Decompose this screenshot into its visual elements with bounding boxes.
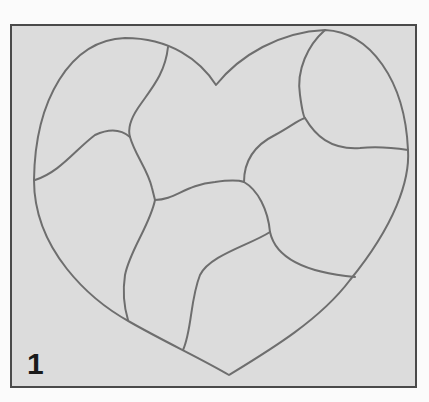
- piece-line-5: [244, 182, 355, 277]
- step-number-label: 1: [27, 349, 44, 379]
- piece-line-1: [129, 47, 168, 137]
- heart-drawing: [0, 0, 429, 402]
- piece-line-4: [155, 181, 244, 201]
- piece-line-7: [124, 200, 155, 320]
- heart-outline: [34, 30, 408, 375]
- piece-line-9: [299, 30, 408, 150]
- piece-line-2: [35, 131, 130, 180]
- piece-line-8: [244, 118, 305, 182]
- piece-line-3: [130, 137, 155, 200]
- piece-line-6: [183, 232, 270, 350]
